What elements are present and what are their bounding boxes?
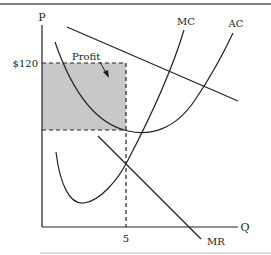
- x-axis-label: Q: [240, 221, 249, 234]
- y-axis-label: P: [38, 11, 46, 24]
- monopoly-profit-diagram: P Q $120 5 MC AC MR Profit: [0, 0, 271, 255]
- ac-label: AC: [228, 18, 244, 29]
- profit-label: Profit: [72, 51, 100, 62]
- mr-label: MR: [207, 236, 225, 247]
- price-tick-label: $120: [13, 58, 38, 69]
- quantity-tick-label: 5: [123, 233, 129, 244]
- mr-curve: [98, 136, 201, 239]
- mc-label: MC: [177, 16, 195, 27]
- profit-area: [42, 63, 126, 130]
